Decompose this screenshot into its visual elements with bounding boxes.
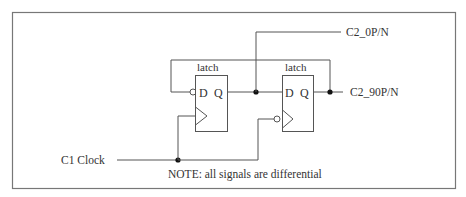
latch-1-pin-q: Q: [214, 86, 223, 100]
latch-divider-diagram: latch D Q latch D Q C1 Clock C2_0P/N C2_…: [0, 0, 466, 197]
latch-1-pin-d: D: [199, 86, 208, 100]
latch-2-pin-d: D: [285, 86, 294, 100]
out-0-label: C2_0P/N: [346, 26, 390, 38]
latch-1: latch D Q: [196, 61, 228, 132]
latch-2: latch D Q: [283, 61, 314, 132]
latch-1-box: [196, 76, 228, 132]
clock-to-latch1-wire: [178, 116, 195, 160]
latch-2-title: latch: [285, 61, 307, 73]
inverter-bubble-clk: [274, 116, 280, 122]
clock-input-label: C1 Clock: [61, 154, 105, 166]
latch-1-title: latch: [197, 61, 219, 73]
latch-2-pin-q: Q: [300, 86, 309, 100]
out-90-label: C2_90P/N: [350, 86, 399, 98]
latch-2-box: [283, 76, 314, 132]
junction-q2: [327, 89, 332, 94]
note-text: NOTE: all signals are differential: [168, 168, 322, 181]
